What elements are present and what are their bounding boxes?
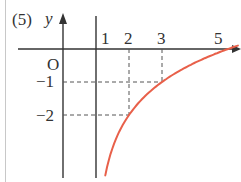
y-tick-minus1: −1 (36, 72, 54, 91)
x-tick-3: 3 (157, 29, 166, 48)
x-tick-2: 2 (124, 29, 133, 48)
y-tick-minus2: −2 (36, 106, 54, 125)
x-tick-1: 1 (101, 29, 110, 48)
y-axis-arrow-icon (59, 13, 67, 24)
graph: (5) y O 1 2 3 5 −1 −2 (0, 0, 241, 182)
x-tick-5: 5 (214, 29, 223, 48)
problem-label: (5) (12, 10, 32, 29)
y-axis-label: y (43, 9, 53, 28)
log-curve (105, 46, 238, 176)
